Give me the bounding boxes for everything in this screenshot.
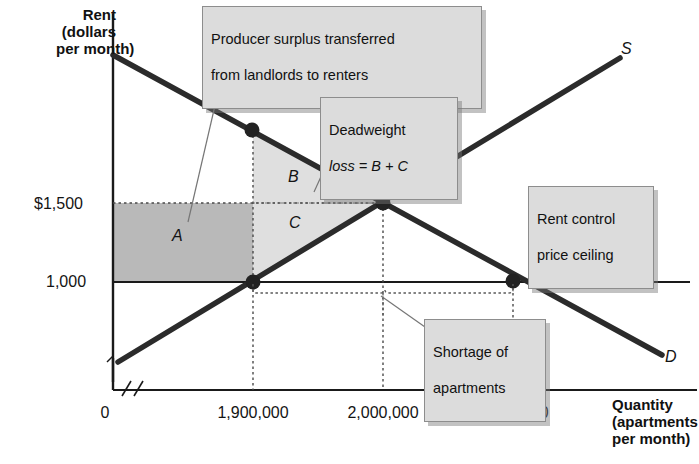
- region-a-shading: [113, 203, 253, 282]
- y-axis-title-line-1: Rent: [56, 6, 116, 23]
- callout-shortage-line-2: apartments: [433, 379, 537, 397]
- x-tick-label-1900000: 1,900,000: [193, 404, 313, 422]
- x-axis-title-line-2: (apartments: [612, 413, 699, 430]
- x-axis-title-line-3: per month): [612, 430, 699, 447]
- demand-curve-label: D: [665, 348, 677, 366]
- figure-canvas: Rent (dollars per month) Quantity (apart…: [0, 0, 699, 464]
- callout-shortage: Shortage of apartments: [424, 319, 546, 422]
- callout-rent-control-line-1: Rent control: [537, 210, 645, 228]
- leader-shortage: [381, 296, 425, 327]
- callout-deadweight-loss: Deadweight loss = B + C: [320, 97, 458, 200]
- region-label-c: C: [289, 214, 301, 232]
- callout-rent-control-line-2: price ceiling: [537, 246, 645, 264]
- y-axis-title-line-3: per month): [56, 40, 116, 57]
- x-tick-label-0: 0: [88, 404, 122, 422]
- x-axis-title: Quantity (apartments per month): [612, 396, 699, 447]
- callout-producer-surplus-line-1: Producer surplus transferred: [211, 30, 473, 48]
- axis-break-mark-2: [134, 381, 143, 396]
- callout-shortage-line-1: Shortage of: [433, 343, 537, 361]
- x-axis-title-line-1: Quantity: [612, 396, 699, 413]
- axis-break-mark-1: [122, 381, 131, 396]
- point-demand-at-2100000: [506, 274, 521, 289]
- y-axis-title-line-2: (dollars: [56, 23, 116, 40]
- region-label-b: B: [288, 168, 299, 186]
- y-tick-label-1000: 1,000: [46, 273, 86, 291]
- y-tick-label-1500: $1,500: [34, 195, 83, 213]
- callout-producer-surplus-line-2: from landlords to renters: [211, 66, 473, 84]
- callout-rent-control: Rent control price ceiling: [528, 186, 654, 289]
- region-label-a: A: [172, 227, 183, 245]
- point-supply-at-1900000: [246, 275, 261, 290]
- callout-deadweight-loss-line-1: Deadweight: [329, 121, 449, 139]
- callout-producer-surplus: Producer surplus transferred from landlo…: [202, 6, 482, 109]
- callout-deadweight-loss-line-2: loss = B + C: [329, 157, 449, 175]
- y-axis-title: Rent (dollars per month): [56, 6, 116, 57]
- supply-curve-label: S: [621, 40, 632, 58]
- point-demand-at-1900000: [245, 123, 260, 138]
